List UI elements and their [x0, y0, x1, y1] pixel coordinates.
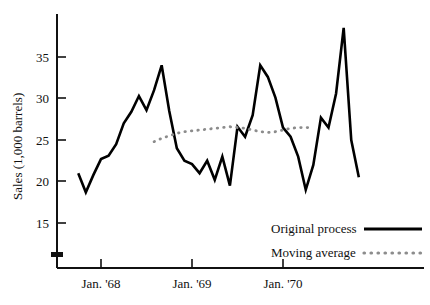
- y-tick-label-35: 35: [36, 50, 49, 65]
- x-axis-ticks: [101, 259, 283, 268]
- y-tick-label-30: 30: [36, 91, 49, 106]
- series-line-original-process: [78, 28, 359, 192]
- chart-figure: 35 30 25 20 15 Sales (1,000 barrels) Jan…: [0, 0, 430, 305]
- chart-legend: Original process Moving average: [271, 221, 422, 260]
- y-axis-title: Sales (1,000 barrels): [10, 93, 25, 200]
- y-tick-label-20: 20: [36, 174, 49, 189]
- x-tick-label-jan70: Jan. '70: [263, 276, 302, 291]
- x-tick-label-jan68: Jan. '68: [81, 276, 120, 291]
- x-tick-label-jan69: Jan. '69: [172, 276, 211, 291]
- y-tick-label-25: 25: [36, 133, 49, 148]
- y-tick-label-15: 15: [36, 216, 49, 231]
- y-axis-ticks: [57, 57, 66, 223]
- chart-canvas: 35 30 25 20 15 Sales (1,000 barrels) Jan…: [0, 0, 430, 305]
- legend-label-moving-average: Moving average: [271, 245, 356, 260]
- legend-label-original-process: Original process: [271, 221, 357, 236]
- y-axis-break-marker: [51, 252, 63, 257]
